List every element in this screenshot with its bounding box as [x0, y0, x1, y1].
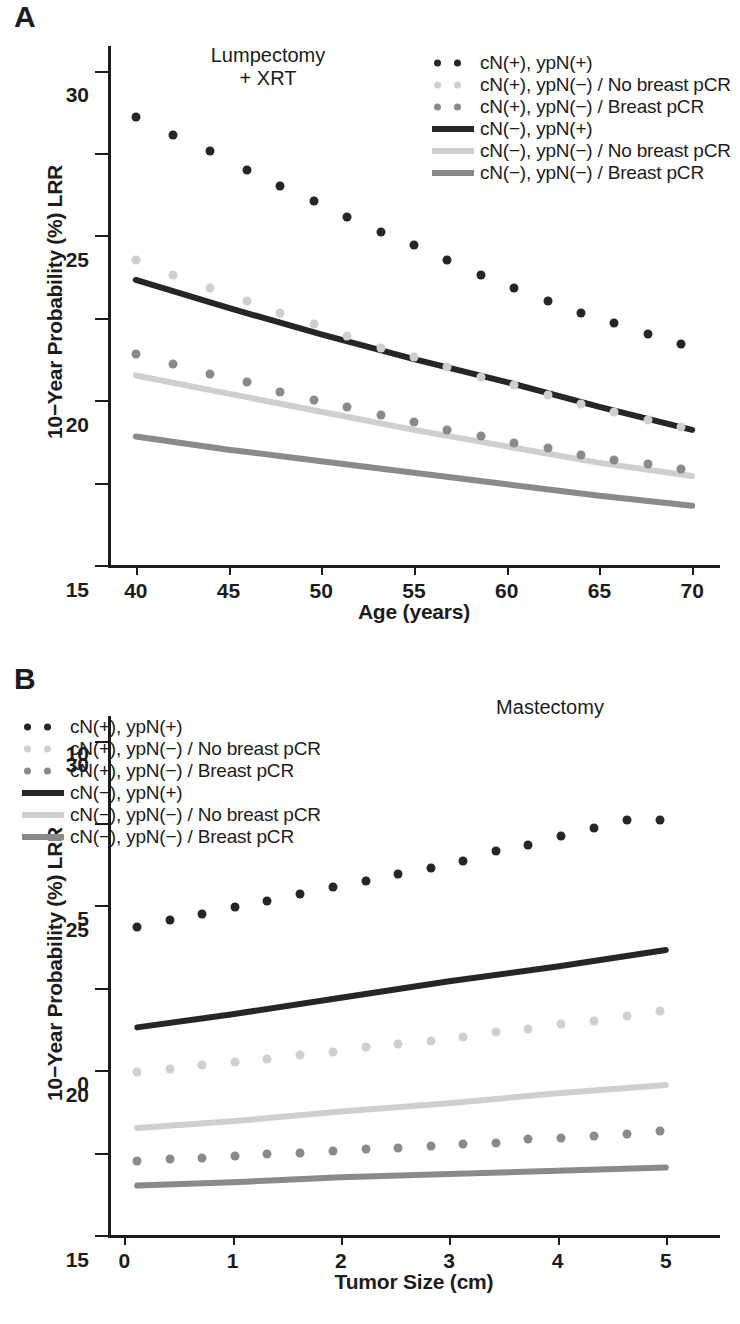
- x-axis-tick: [124, 1235, 126, 1245]
- panel-b-plot-area: 051015202530012345: [108, 716, 720, 1235]
- data-point: [168, 130, 177, 139]
- data-point: [329, 1048, 338, 1057]
- data-point: [263, 1150, 272, 1159]
- data-point: [131, 350, 140, 359]
- y-axis-tick-label: 20: [66, 413, 89, 437]
- line-series-layer: [108, 46, 720, 565]
- y-axis-tick: 0: [95, 1235, 108, 1237]
- data-point: [459, 1140, 468, 1149]
- y-axis-tick: 15: [95, 318, 108, 320]
- data-point: [410, 353, 419, 362]
- data-point: [524, 1025, 533, 1034]
- data-point: [622, 1130, 631, 1139]
- data-point: [459, 856, 468, 865]
- data-point: [206, 147, 215, 156]
- data-point: [576, 450, 585, 459]
- panel-a-letter: A: [14, 2, 36, 32]
- data-point: [394, 1143, 403, 1152]
- data-point: [376, 411, 385, 420]
- data-point: [394, 870, 403, 879]
- panel-a-x-axis-label: Age (years): [108, 600, 720, 624]
- legend-line-marker-icon: [18, 804, 70, 826]
- data-point: [491, 1028, 500, 1037]
- legend-dot-marker-icon: [18, 716, 70, 738]
- x-axis-tick: [414, 565, 416, 575]
- x-axis-tick: [692, 565, 694, 575]
- data-point: [295, 1148, 304, 1157]
- y-axis-tick-label: 25: [66, 918, 89, 942]
- y-axis-tick-label: 30: [66, 753, 89, 777]
- legend-line-marker-icon: [18, 826, 70, 848]
- data-point: [361, 1145, 370, 1154]
- data-point: [230, 1151, 239, 1160]
- data-point: [622, 815, 631, 824]
- x-axis-tick: [666, 1235, 668, 1245]
- data-point: [543, 444, 552, 453]
- data-point: [376, 343, 385, 352]
- data-point: [133, 1156, 142, 1165]
- data-point: [276, 182, 285, 191]
- data-point: [610, 407, 619, 416]
- data-point: [168, 271, 177, 280]
- data-point: [131, 256, 140, 265]
- data-point: [656, 1006, 665, 1015]
- data-point: [329, 883, 338, 892]
- data-point: [610, 455, 619, 464]
- data-point: [556, 832, 565, 841]
- x-axis-line: [108, 1235, 720, 1238]
- data-point: [309, 320, 318, 329]
- data-point: [622, 1011, 631, 1020]
- data-point: [243, 297, 252, 306]
- data-point: [491, 847, 500, 856]
- data-point: [443, 256, 452, 265]
- data-point: [590, 1132, 599, 1141]
- data-point: [263, 1054, 272, 1063]
- data-point: [610, 318, 619, 327]
- data-point: [206, 284, 215, 293]
- data-point: [677, 465, 686, 474]
- data-point: [165, 1155, 174, 1164]
- data-point: [243, 378, 252, 387]
- data-point: [510, 381, 519, 390]
- data-point: [576, 308, 585, 317]
- data-point: [510, 284, 519, 293]
- y-axis-tick: 10: [95, 1070, 108, 1072]
- data-point: [131, 112, 140, 121]
- data-point: [656, 1127, 665, 1136]
- y-axis-tick: 30: [95, 71, 108, 73]
- data-point: [198, 909, 207, 918]
- x-axis-tick: [507, 565, 509, 575]
- x-axis-tick: [229, 565, 231, 575]
- data-point: [165, 1064, 174, 1073]
- data-point: [410, 417, 419, 426]
- y-axis-tick: 20: [95, 905, 108, 907]
- line-series: [137, 950, 666, 1027]
- data-point: [295, 1051, 304, 1060]
- y-axis-tick-label: 15: [66, 1248, 89, 1272]
- data-point: [476, 271, 485, 280]
- x-axis-tick: [321, 565, 323, 575]
- data-point: [361, 876, 370, 885]
- y-axis-tick-label: 25: [66, 248, 89, 272]
- y-axis-tick-label: 20: [66, 1083, 89, 1107]
- data-point: [643, 416, 652, 425]
- data-point: [165, 916, 174, 925]
- y-axis-tick: 20: [95, 235, 108, 237]
- data-point: [376, 228, 385, 237]
- panel-a: A 10−Year Probability (%) LRR Lumpectomy…: [0, 0, 740, 662]
- data-point: [133, 1067, 142, 1076]
- x-axis-tick: [341, 1235, 343, 1245]
- x-axis-tick: [233, 1235, 235, 1245]
- data-point: [343, 331, 352, 340]
- data-point: [263, 896, 272, 905]
- data-point: [510, 439, 519, 448]
- data-point: [643, 330, 652, 339]
- data-point: [643, 460, 652, 469]
- data-point: [198, 1153, 207, 1162]
- panel-a-plot-area: 05101520253040455055606570: [108, 46, 720, 565]
- data-point: [590, 824, 599, 833]
- line-series: [136, 436, 692, 505]
- y-axis-tick: 30: [95, 741, 108, 743]
- data-point: [476, 373, 485, 382]
- data-point: [556, 1020, 565, 1029]
